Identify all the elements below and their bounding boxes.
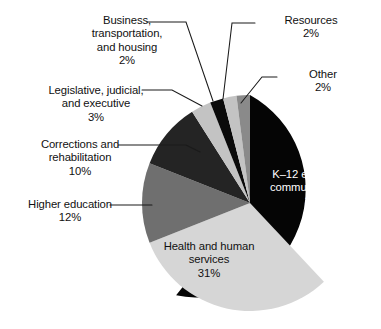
leader-line-resources: [223, 23, 255, 99]
label-k12-education-and-community-college: K–12 education & community college 38%: [256, 168, 376, 208]
label-health-and-human-services: Health and human services 31%: [150, 240, 268, 280]
label-resources: Resources 2%: [258, 14, 364, 41]
label-legislative-judicial-and-executive: Legislative, judicial, and executive 3%: [26, 84, 166, 124]
label-business-transportation-and-housing: Business, transportation, and housing 2%: [60, 14, 194, 68]
pie-chart-figure: Business, transportation, and housing 2%…: [0, 0, 381, 329]
label-higher-education: Higher education 12%: [8, 198, 132, 225]
label-other: Other 2%: [280, 68, 366, 95]
label-corrections-and-rehabilitation: Corrections and rehabilitation 10%: [14, 138, 146, 178]
